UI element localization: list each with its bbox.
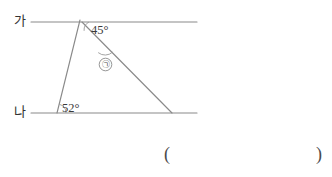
geometry-figure: 가 나 45° 52° ㉠ ( ) xyxy=(0,0,332,177)
answer-open-paren: ( xyxy=(164,145,170,163)
answer-close-paren: ) xyxy=(316,145,322,163)
angle-arc-apex xyxy=(98,52,112,55)
angle-label-45-degrees: 45° xyxy=(91,24,109,37)
angle-label-52-degrees: 52° xyxy=(62,102,80,115)
left-transversal-line xyxy=(57,20,80,113)
parallel-line-top-label: 가 xyxy=(14,14,26,27)
parallel-line-bottom-label: 나 xyxy=(14,105,26,118)
unknown-angle-marker-label: ㉠ xyxy=(98,61,113,69)
